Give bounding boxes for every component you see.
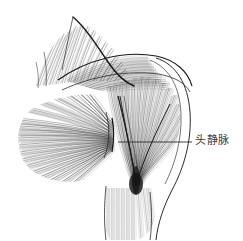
anatomical-figure: 头静脉 [0, 0, 243, 241]
anatomy-illustration [0, 0, 243, 241]
cephalic-vein-label: 头静脉 [195, 134, 230, 147]
